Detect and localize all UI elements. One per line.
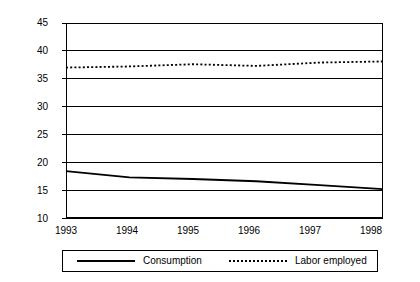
series-group bbox=[66, 61, 383, 189]
series-line-consumption bbox=[66, 171, 383, 189]
x-tick-label-1998: 1998 bbox=[347, 226, 395, 236]
x-tick-label-1993: 1993 bbox=[42, 226, 90, 236]
gridlines-group bbox=[66, 23, 383, 218]
plot-canvas bbox=[0, 0, 420, 282]
series-line-labor-employed bbox=[66, 61, 383, 67]
legend-dotted-line-icon bbox=[229, 256, 287, 266]
line-chart-figure: 45 40 35 30 25 20 15 10 1993 1994 1995 1… bbox=[0, 0, 420, 282]
x-tick-label-1995: 1995 bbox=[164, 226, 212, 236]
chart-legend: Consumption Labor employed bbox=[62, 250, 378, 272]
x-tick-label-1997: 1997 bbox=[286, 226, 334, 236]
legend-label-labor-employed: Labor employed bbox=[295, 256, 367, 266]
y-tickmarks-group bbox=[62, 23, 66, 218]
legend-label-consumption: Consumption bbox=[143, 256, 202, 266]
legend-entry-consumption: Consumption bbox=[77, 251, 202, 271]
legend-entry-labor-employed: Labor employed bbox=[229, 251, 367, 271]
legend-solid-line-icon bbox=[77, 256, 135, 266]
x-tick-label-1996: 1996 bbox=[225, 226, 273, 236]
x-tick-label-1994: 1994 bbox=[103, 226, 151, 236]
